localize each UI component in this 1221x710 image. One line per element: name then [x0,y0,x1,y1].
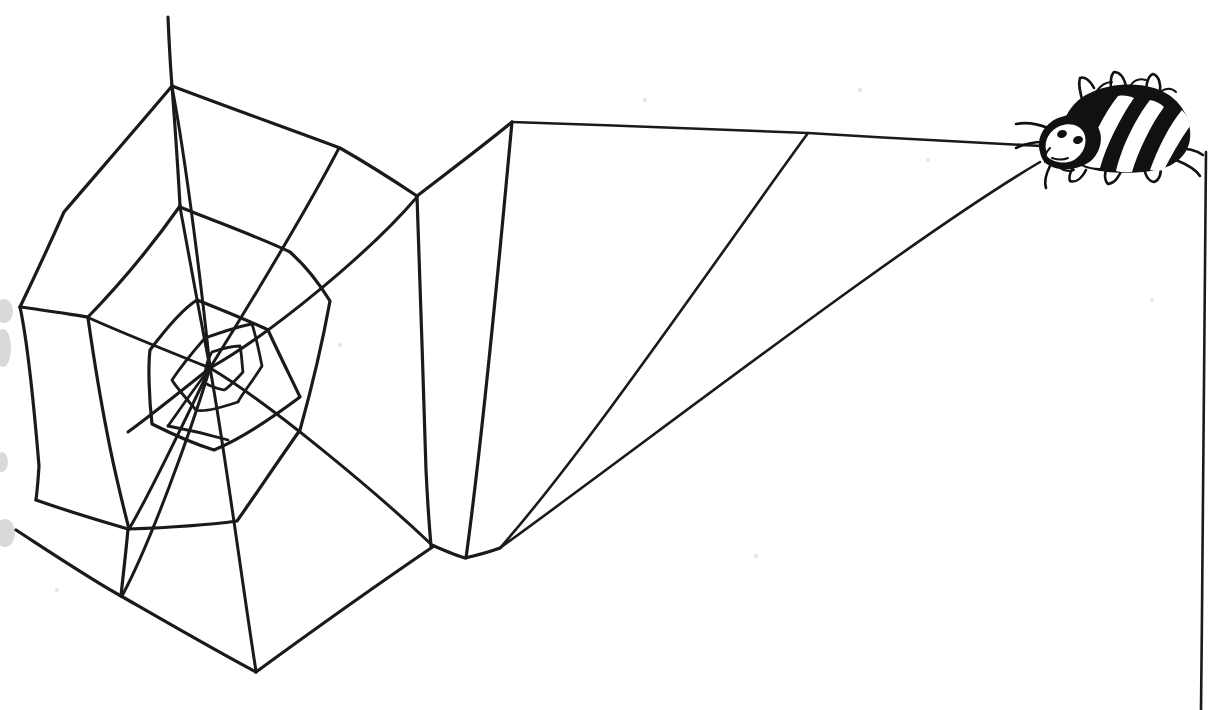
illustration-canvas: Spider and Orb Web A hand-drawn black in… [0,0,1221,710]
drawing-surface [0,0,1221,710]
paper-background [0,0,1221,710]
